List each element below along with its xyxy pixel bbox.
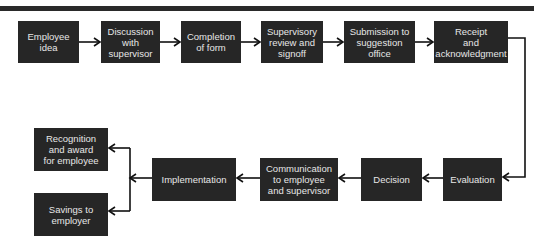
node-savings-to-employer: Savings to employer: [34, 193, 108, 236]
node-submission: Submission to suggestion office: [344, 21, 415, 63]
node-implementation: Implementation: [152, 158, 236, 201]
node-decision: Decision: [361, 158, 422, 201]
node-employee-idea: Employee idea: [18, 21, 79, 63]
node-communication: Communication to employee and supervisor: [260, 158, 338, 201]
node-completion-of-form: Completion of form: [181, 21, 241, 63]
node-evaluation: Evaluation: [443, 158, 502, 201]
node-recognition-award: Recognition and award for employee: [34, 128, 108, 171]
node-supervisory-review: Supervisory review and signoff: [261, 21, 323, 63]
node-discussion-with-supervisor: Discussion with supervisor: [101, 21, 160, 63]
node-receipt: Receipt and acknowledgment: [434, 21, 508, 63]
